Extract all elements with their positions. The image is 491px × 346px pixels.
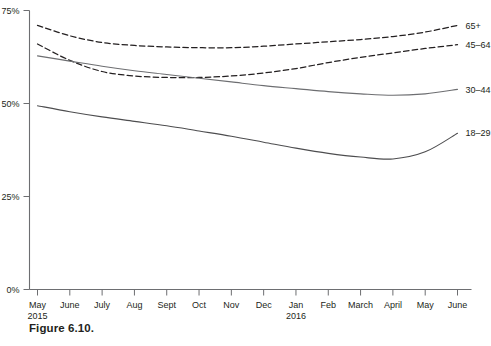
x-tick-label: May [29, 300, 47, 310]
series-label-45-64: 45–64 [466, 40, 491, 50]
y-tick-label: 75% [1, 6, 19, 16]
x-tick-label: Jan [289, 300, 304, 310]
x-tick-label: Sept [157, 300, 176, 310]
series-line-45-64 [38, 44, 458, 78]
series-line-65plus [38, 25, 458, 47]
series-label-18-29: 18–29 [466, 128, 491, 138]
x-tick-label: Nov [223, 300, 240, 310]
series-label-65plus: 65+ [466, 21, 481, 31]
figure-container: 0%25%50%75%May2015JuneJulyAugSeptOctNovD… [0, 0, 491, 346]
y-tick-label: 25% [1, 192, 19, 202]
x-tick-label: March [348, 300, 373, 310]
x-tick-label: July [94, 300, 111, 310]
x-tick-label: Feb [321, 300, 337, 310]
x-tick-label: Oct [192, 300, 207, 310]
x-tick-label: June [60, 300, 80, 310]
x-tick-label: June [448, 300, 468, 310]
series-label-30-44: 30–44 [466, 85, 491, 95]
y-tick-label: 0% [6, 285, 19, 295]
x-tick-year-label: 2016 [286, 311, 306, 321]
x-tick-label: May [417, 300, 435, 310]
x-tick-label: April [384, 300, 402, 310]
line-chart: 0%25%50%75%May2015JuneJulyAugSeptOctNovD… [0, 0, 491, 346]
figure-caption: Figure 6.10. [29, 322, 94, 334]
x-tick-year-label: 2015 [27, 311, 47, 321]
x-tick-label: Dec [256, 300, 273, 310]
y-tick-label: 50% [1, 99, 19, 109]
series-line-30-44 [38, 56, 458, 95]
x-tick-label: Aug [126, 300, 142, 310]
series-line-18-29 [38, 106, 458, 159]
